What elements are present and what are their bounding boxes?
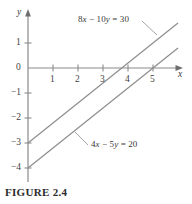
x-tick-label-4: 4: [125, 75, 130, 85]
y-tick-label-neg-1: −1: [11, 88, 21, 98]
y-tick-label-neg-3: −3: [11, 138, 21, 148]
equation-label-upper: 8x − 10y = 30: [78, 15, 129, 24]
y-tick-label-0: 0: [16, 63, 21, 73]
equation-label-lower: 4x − 5y = 20: [91, 140, 137, 149]
y-tick-label-neg-2: −2: [11, 113, 21, 123]
leader-line-lower: [75, 132, 88, 145]
x-tick-label-5: 5: [150, 75, 155, 85]
y-axis-label: y: [17, 8, 21, 18]
leader-line-upper: [142, 21, 157, 35]
y-tick-label-1: 1: [16, 38, 21, 48]
figure-container: y x 1 2 3 4 5 1 0 −1 −2 −3 −4 8x − 10y =…: [0, 0, 192, 204]
x-tick-label-2: 2: [75, 75, 80, 85]
y-tick-label-neg-4: −4: [11, 163, 21, 173]
figure-caption: FIGURE 2.4: [5, 186, 67, 198]
x-tick-label-3: 3: [100, 75, 105, 85]
y-axis-arrow-icon: [25, 9, 31, 17]
x-tick-label-1: 1: [50, 75, 55, 85]
plot-canvas: [0, 0, 192, 204]
x-axis-label: x: [178, 70, 182, 80]
